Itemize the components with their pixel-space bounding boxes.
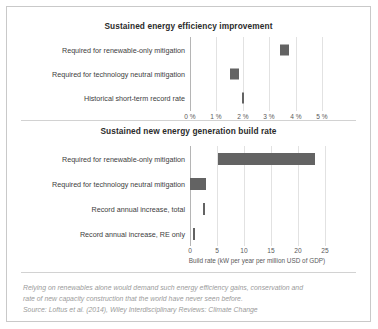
chart-title-buildrate: Sustained new energy generation build ra… <box>7 126 370 136</box>
chart1-gridline-1pct <box>216 37 217 111</box>
chart2-tick-5: 25 <box>321 247 328 254</box>
chart2-category-label-3: Record annual increase, RE only <box>7 230 185 239</box>
footer-caption: Relying on renewables alone would demand… <box>23 282 356 316</box>
chart1-tick-4: 4 % <box>290 113 301 120</box>
panel-divider <box>21 120 356 121</box>
chart1-category-label-2: Historical short-term record rate <box>7 94 185 103</box>
chart2-bar-0 <box>218 153 315 165</box>
chart1-tick-2: 2 % <box>237 113 248 120</box>
chart-panel-efficiency: Sustained energy efficiency improvement … <box>7 21 370 117</box>
chart2-bar-1 <box>190 178 206 190</box>
chart2-category-label-0: Required for renewable-only mitigation <box>7 155 185 164</box>
chart1-axis-line <box>190 37 191 111</box>
chart1-bar-1 <box>230 69 239 80</box>
slide-frame: Sustained energy efficiency improvement … <box>6 6 371 322</box>
chart2-gridline-25 <box>325 146 326 246</box>
chart2-tick-2: 10 <box>240 247 247 254</box>
footer-line-3: Source: Loftus et al. (2014), Wiley Inte… <box>23 304 356 315</box>
footer-line-1: Relying on renewables alone would demand… <box>23 282 356 293</box>
chart2-bar-3 <box>193 228 195 240</box>
chart1-bar-0 <box>280 45 289 56</box>
chart1-bar-2 <box>242 93 244 104</box>
chart1-gridline-5pct <box>322 37 323 111</box>
chart1-plot-area: 0 % 1 % 2 % 3 % 4 % 5 % <box>190 37 330 111</box>
chart2-tick-4: 20 <box>294 247 301 254</box>
chart-title-efficiency: Sustained energy efficiency improvement <box>7 21 370 31</box>
chart2-axis-line <box>190 146 191 246</box>
chart2-axis-title: Build rate (kW per year per million USD … <box>189 257 325 264</box>
footer-line-2: rate of new capacity construction that t… <box>23 293 356 304</box>
chart2-plot-area: 0 5 10 15 20 25 Build rate (kW per year … <box>190 146 332 246</box>
footer-divider <box>21 272 356 273</box>
chart1-category-label-1: Required for technology neutral mitigati… <box>7 70 185 79</box>
chart1-category-label-0: Required for renewable-only mitigation <box>7 46 185 55</box>
chart2-tick-1: 5 <box>215 247 219 254</box>
chart2-category-label-1: Required for technology neutral mitigati… <box>7 180 185 189</box>
chart2-category-label-2: Record annual increase, total <box>7 205 185 214</box>
chart1-gridline-3pct <box>269 37 270 111</box>
chart1-tick-0: 0 % <box>184 113 195 120</box>
chart1-gridline-4pct <box>296 37 297 111</box>
chart-panel-buildrate: Sustained new energy generation build ra… <box>7 126 370 260</box>
chart2-tick-3: 15 <box>267 247 274 254</box>
chart2-bar-2 <box>203 203 205 215</box>
chart1-tick-1: 1 % <box>210 113 221 120</box>
chart1-tick-3: 3 % <box>263 113 274 120</box>
chart2-tick-0: 0 <box>188 247 192 254</box>
chart1-tick-5: 5 % <box>316 113 327 120</box>
